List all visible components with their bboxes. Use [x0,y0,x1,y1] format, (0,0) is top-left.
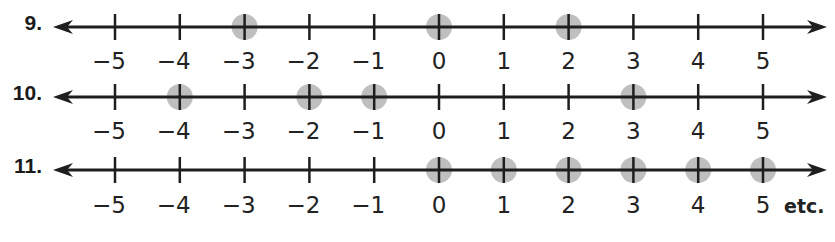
tick-label: 3 [626,118,641,144]
tick-label: −1 [351,118,385,144]
tick-label: −5 [92,48,126,74]
number-line-10 [53,84,827,110]
tick-label: −2 [286,192,320,218]
tick-label: 5 [756,192,771,218]
tick-label: 0 [432,192,447,218]
problem-number: 11. [2,154,42,178]
tick-label: −2 [286,118,320,144]
tick-label: 3 [626,192,641,218]
problem-number: 10. [2,81,42,105]
tick-label: −1 [351,192,385,218]
tick-label: −4 [157,48,191,74]
tick-label: 1 [496,118,511,144]
number-line-11 [53,157,827,183]
tick-label: −4 [157,192,191,218]
tick-label: 4 [691,192,706,218]
tick-label: 4 [691,118,706,144]
tick-label: 2 [561,118,576,144]
etc-label: etc. [784,195,824,217]
tick-label: 0 [432,48,447,74]
tick-label: 1 [496,48,511,74]
tick-label: 2 [561,192,576,218]
tick-label: −3 [222,118,256,144]
tick-label: 2 [561,48,576,74]
tick-label: −3 [222,192,256,218]
tick-label: 5 [756,48,771,74]
problem-number: 9. [2,11,42,35]
tick-label: 4 [691,48,706,74]
tick-label: 3 [626,48,641,74]
tick-label: −4 [157,118,191,144]
tick-label: −1 [351,48,385,74]
tick-label: 0 [432,118,447,144]
tick-label: −5 [92,192,126,218]
tick-label: −5 [92,118,126,144]
number-line-9 [53,14,827,40]
tick-label: 5 [756,118,771,144]
tick-label: −2 [286,48,320,74]
tick-label: 1 [496,192,511,218]
number-line-worksheet: 9.−5−4−3−2−101234510.−5−4−3−2−101234511.… [0,0,835,242]
tick-label: −3 [222,48,256,74]
